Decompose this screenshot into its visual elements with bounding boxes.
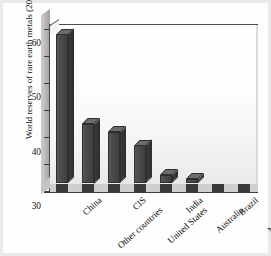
bar-footprint xyxy=(160,184,172,193)
y-axis-tick: 20 xyxy=(44,137,51,138)
bar-front-face xyxy=(108,132,120,183)
x-axis-label-other-countries: Other countries xyxy=(116,205,165,251)
bar-side-face xyxy=(94,118,100,183)
y-axis-tick: 30 xyxy=(44,110,51,111)
bar-side-face xyxy=(120,126,126,183)
plot-area: 6050403020100 xyxy=(41,15,260,193)
figure-background: World reserves of rare earth metals (201… xyxy=(3,3,268,253)
bar-china xyxy=(56,34,68,183)
y-axis-line xyxy=(49,24,50,192)
y-axis-tick: 40 xyxy=(44,83,51,84)
bar-footprint xyxy=(134,184,146,193)
y-axis-tick-label: 60 xyxy=(32,38,41,48)
bar-side-face xyxy=(146,140,152,183)
bar-front-face xyxy=(56,34,68,183)
bar-footprint xyxy=(56,184,68,193)
bar-footprint xyxy=(108,184,120,193)
bar-cis xyxy=(108,132,120,183)
bar-front-face xyxy=(82,124,94,184)
y-axis-tick-label: 30 xyxy=(32,201,41,211)
y-axis-tick-label: 40 xyxy=(32,147,41,157)
bar-footprint xyxy=(212,184,224,193)
y-axis-tick-label: 50 xyxy=(32,92,41,102)
y-axis-title: World reserves of rare earth metals (201… xyxy=(24,0,34,143)
x-axis-label-china: China xyxy=(81,195,104,217)
x-axis-label-malaysia: Malaysia xyxy=(266,205,271,235)
x-axis-label-cis: CIS xyxy=(131,195,148,212)
panel-right-edge xyxy=(256,25,258,192)
bar-footprint xyxy=(82,184,94,193)
y-axis-tick: 60 xyxy=(44,29,51,30)
x-axis-category-labels: ChinaOther countriesCISUnited StatesIndi… xyxy=(41,193,271,255)
x-axis-label-brazil: Brazil xyxy=(237,195,260,217)
y-axis-tick: 50 xyxy=(44,56,51,57)
bar-footprint xyxy=(186,184,198,193)
bar-front-face xyxy=(134,145,146,183)
bar-footprint xyxy=(238,184,250,193)
bar-side-face xyxy=(68,29,74,183)
bar-other-countries xyxy=(82,124,94,184)
y-axis-tick: 10 xyxy=(44,164,51,165)
bar-united-states xyxy=(134,145,146,183)
figure-frame: World reserves of rare earth metals (201… xyxy=(0,0,271,256)
